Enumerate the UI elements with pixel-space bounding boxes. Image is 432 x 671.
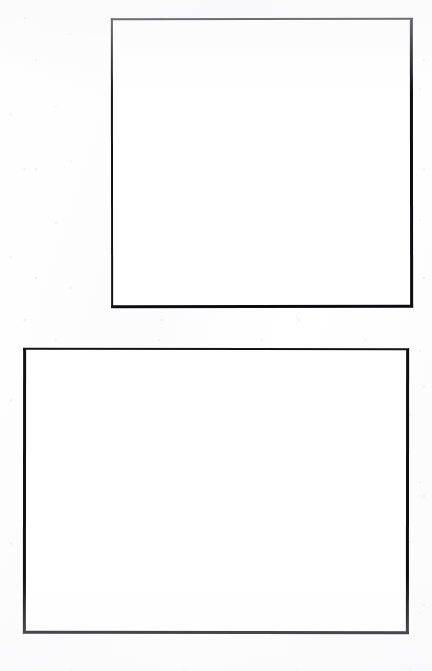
figure-frame-1: [111, 18, 413, 308]
figure-frame-2: [23, 348, 409, 634]
figure-frame-2-interior: [26, 350, 406, 631]
figure-frame-1-interior: [113, 20, 410, 305]
scanned-page: [0, 0, 432, 671]
